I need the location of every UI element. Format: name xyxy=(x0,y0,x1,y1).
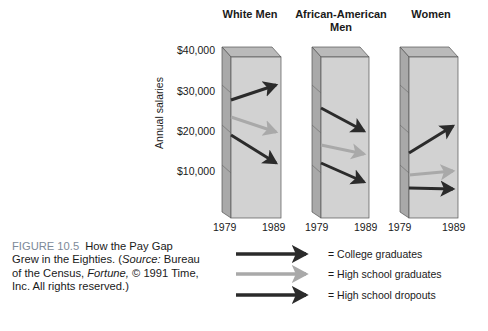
legend-label-hs-dropouts: = High school dropouts xyxy=(328,289,436,301)
year-start-women: 1979 xyxy=(388,221,411,233)
legend-label-college: = College graduates xyxy=(328,248,422,260)
year-end-aa-men: 1989 xyxy=(354,221,377,233)
block-african-american-men xyxy=(312,47,369,218)
block-white-men xyxy=(222,47,281,218)
year-end-white-men: 1989 xyxy=(262,221,285,233)
block-front-face xyxy=(231,57,281,218)
block-side-face xyxy=(222,47,231,218)
block-top-face xyxy=(222,47,281,57)
block-side-face xyxy=(400,47,409,218)
arrow-hs-dropouts xyxy=(409,188,453,189)
year-start-white-men: 1979 xyxy=(213,221,236,233)
year-end-women: 1989 xyxy=(442,221,465,233)
year-start-aa-men: 1979 xyxy=(305,221,328,233)
block-women xyxy=(400,47,458,218)
source-label: Source: xyxy=(122,253,161,265)
block-top-face xyxy=(312,47,369,57)
block-side-face xyxy=(312,47,321,218)
figure-caption: FIGURE 10.5How the Pay Gap Grew in the E… xyxy=(12,240,202,294)
block-front-face xyxy=(321,57,369,218)
figure-label: FIGURE 10.5 xyxy=(12,240,79,252)
block-top-face xyxy=(400,47,458,57)
publication-name: Fortune, xyxy=(87,267,129,279)
legend-label-hs-graduates: = High school graduates xyxy=(328,268,442,280)
